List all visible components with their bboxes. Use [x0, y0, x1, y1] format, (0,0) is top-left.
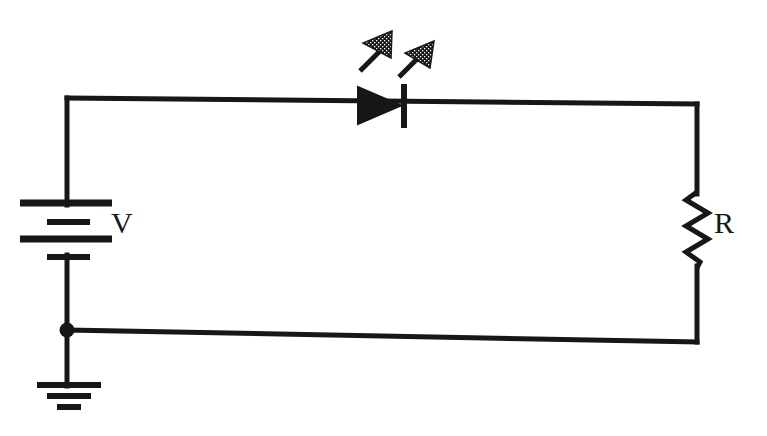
wire-bottom: [67, 330, 697, 342]
resistor-label: R: [714, 208, 734, 238]
led-emission-arrow-2: [399, 41, 434, 77]
battery-symbol: [20, 203, 112, 257]
battery-label: V: [111, 208, 133, 238]
led-emission-arrow-1: [360, 31, 392, 71]
led-symbol: [358, 84, 404, 128]
led-emission-arrows: [360, 31, 434, 77]
resistor-zigzag: [686, 192, 708, 268]
led-triangle: [358, 87, 401, 124]
circuit-diagram-canvas: V R: [0, 0, 767, 436]
junction-node-dot: [60, 323, 75, 338]
